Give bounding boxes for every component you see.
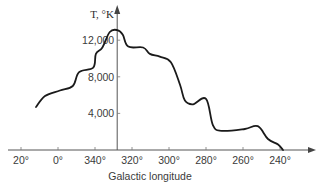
y-axis-arrow <box>114 5 120 14</box>
chart: 20°0°340°320°300°280°260°240° 4,0008,000… <box>0 0 320 183</box>
x-tick-label: 340° <box>84 154 106 166</box>
x-tick-label: 320° <box>121 154 143 166</box>
x-tick-label: 20° <box>13 154 29 166</box>
x-tick-label: 240° <box>269 154 291 166</box>
x-tick-label: 260° <box>232 154 254 166</box>
x-axis-arrow <box>308 147 316 153</box>
axes <box>8 5 316 153</box>
series-line-temperature <box>36 30 283 150</box>
x-tick-label: 280° <box>195 154 217 166</box>
x-tick-label: 0° <box>53 154 63 166</box>
y-axis-label: T, °K <box>90 8 114 20</box>
x-tick-label: 300° <box>158 154 180 166</box>
y-tick-label: 4,000 <box>88 107 114 119</box>
x-axis-label: Galactic longitude <box>108 170 192 182</box>
y-tick-label: 12,000 <box>82 34 114 46</box>
y-tick-label: 8,000 <box>88 71 114 83</box>
y-ticks: 4,0008,00012,000 <box>82 34 120 119</box>
